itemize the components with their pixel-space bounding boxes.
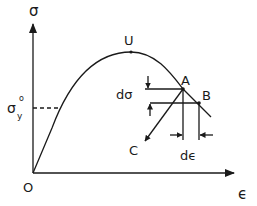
point-a-label: A [181, 73, 190, 88]
yield-stress-subscript: y [17, 111, 23, 121]
y-axis-label: σ [29, 2, 39, 20]
stress-strain-diagram: σ ϵ O σ y o U A B dσ dϵ C [0, 0, 257, 206]
d-epsilon-label: dϵ [180, 148, 196, 163]
yield-stress-superscript: o [19, 94, 24, 103]
yield-stress-label: σ [7, 100, 16, 116]
a-to-c-arrow [145, 89, 183, 141]
point-b-label: B [202, 88, 211, 103]
point-u-label: U [124, 33, 134, 48]
point-c-label: C [129, 143, 138, 158]
d-sigma-label: dσ [116, 87, 133, 102]
point-u-marker [129, 50, 132, 53]
x-axis-label: ϵ [238, 185, 247, 203]
origin-label: O [23, 180, 33, 195]
